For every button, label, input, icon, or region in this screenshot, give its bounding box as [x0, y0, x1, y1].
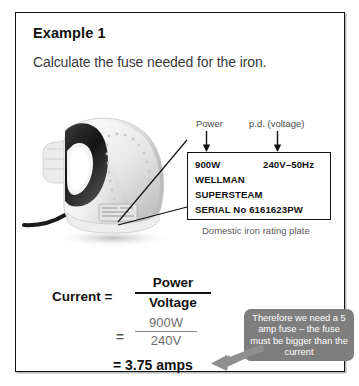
- callout-arrow-icon: [208, 343, 264, 373]
- numeric-fraction-bar: [135, 331, 197, 332]
- page-title: Example 1: [33, 25, 106, 41]
- symbolic-denominator: Voltage: [135, 295, 211, 311]
- numeric-numerator: 900W: [135, 315, 197, 330]
- iron-photo: [21, 95, 201, 250]
- plate-serial-number: SERIAL No 6161623PW: [195, 204, 303, 215]
- plate-brand: WELLMAN: [195, 174, 245, 185]
- current-equals-label: Current =: [52, 289, 112, 304]
- equation-result: = 3.75 amps: [113, 357, 193, 373]
- rating-plate: 900W 240V–50Hz WELLMAN SUPERSTEAM SERIAL…: [187, 152, 331, 220]
- numeric-fraction: 900W 240V: [135, 315, 197, 348]
- question-text: Calculate the fuse needed for the iron.: [33, 54, 266, 70]
- iron-rating-label: [99, 204, 137, 221]
- power-label: Power: [196, 118, 223, 129]
- numeric-denominator: 240V: [135, 333, 197, 348]
- symbolic-fraction-bar: [135, 292, 211, 294]
- plate-model: SUPERSTEAM: [195, 189, 263, 200]
- plate-power-value: 900W: [195, 159, 220, 170]
- power-pointer-arrow-icon: [202, 131, 211, 153]
- plate-voltage-value: 240V–50Hz: [263, 159, 314, 170]
- rating-plate-caption: Domestic iron rating plate: [202, 225, 310, 236]
- voltage-pointer-arrow-icon: [273, 131, 282, 153]
- iron-illustration: [21, 95, 201, 250]
- symbolic-numerator: Power: [135, 275, 211, 291]
- second-equals-sign: =: [116, 329, 124, 344]
- symbolic-fraction: Power Voltage: [135, 275, 211, 311]
- pd-voltage-label: p.d. (voltage): [249, 118, 304, 129]
- example-panel: Example 1 Calculate the fuse needed for …: [15, 12, 345, 372]
